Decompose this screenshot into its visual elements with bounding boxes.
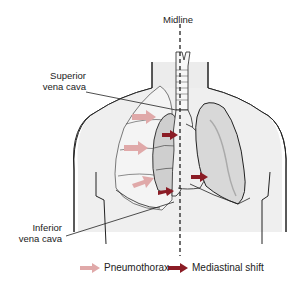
midline-label: Midline [163,14,193,25]
legend-label-mediastinal-shift: Mediastinal shift [192,262,264,273]
diagram-canvas: Midline Superior vena cava Inferior vena… [0,0,306,287]
trachea [176,52,190,110]
legend-item-mediastinal-shift: Mediastinal shift [192,262,264,273]
legend-item-pneumothorax: Pneumothorax [104,262,169,273]
ivc-label-line1: Inferior [6,222,62,233]
legend-label-pneumothorax: Pneumothorax [104,262,169,273]
svc-label-line1: Superior [30,70,86,81]
inferior-vena-cava-label: Inferior vena cava [6,222,62,244]
svc-label-line2: vena cava [30,81,86,92]
ivc-label-line2: vena cava [6,233,62,244]
superior-vena-cava-label: Superior vena cava [30,70,86,92]
legend: Pneumothorax Mediastinal shift [0,262,306,276]
